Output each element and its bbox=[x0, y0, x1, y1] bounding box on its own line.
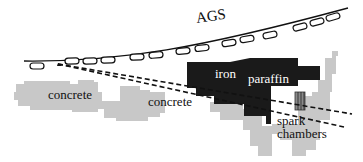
spark-chambers bbox=[295, 92, 305, 110]
concrete-left-label: concrete bbox=[48, 88, 92, 101]
chambers-label: chambers bbox=[277, 127, 327, 140]
concrete-center-label: concrete bbox=[148, 95, 192, 108]
iron-label: iron bbox=[215, 67, 236, 80]
paraffin-label: paraffin bbox=[248, 72, 289, 85]
experiment-diagram: AGS concrete concrete iron paraffin spar… bbox=[0, 0, 363, 162]
